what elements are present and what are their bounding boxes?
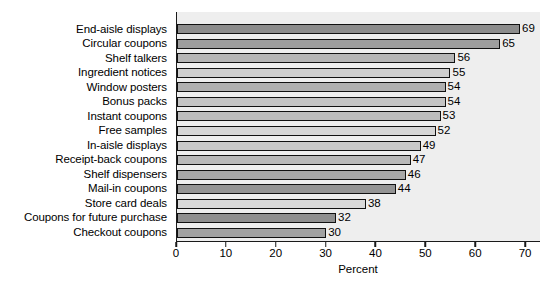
- category-label: Instant coupons: [0, 109, 172, 124]
- category-label: Coupons for future purchase: [0, 211, 172, 226]
- x-axis: 010203040506070: [176, 242, 540, 262]
- bar: 52: [177, 126, 436, 136]
- bar-row: 53: [177, 109, 540, 124]
- bar-value-label: 32: [338, 212, 351, 224]
- bar-row: 69: [177, 22, 540, 37]
- bar-row: 54: [177, 80, 540, 95]
- x-tick-label: 40: [369, 248, 382, 260]
- x-axis-title: Percent: [176, 264, 540, 276]
- bar-row: 32: [177, 211, 540, 226]
- category-label: Window posters: [0, 80, 172, 95]
- bar-value-label: 52: [438, 125, 451, 137]
- bar: 55: [177, 68, 450, 78]
- bar: 44: [177, 184, 396, 194]
- category-label: Checkout coupons: [0, 225, 172, 240]
- bar-row: 49: [177, 138, 540, 153]
- bar-value-label: 30: [328, 227, 341, 239]
- category-label: Bonus packs: [0, 95, 172, 110]
- bar: 32: [177, 213, 336, 223]
- bar-value-label: 56: [457, 53, 470, 65]
- x-tick-label: 70: [519, 248, 532, 260]
- bar-row: 44: [177, 182, 540, 197]
- category-axis: End-aisle displaysCircular couponsShelf …: [0, 22, 172, 240]
- bar: 65: [177, 39, 500, 49]
- bar-value-label: 47: [413, 154, 426, 166]
- bar: 53: [177, 111, 441, 121]
- x-tick-label: 20: [269, 248, 282, 260]
- category-label: Receipt-back coupons: [0, 153, 172, 168]
- x-tick-label: 0: [173, 248, 179, 260]
- category-label: Store card deals: [0, 196, 172, 211]
- x-tick-label: 30: [319, 248, 332, 260]
- bar-value-label: 46: [408, 169, 421, 181]
- bar-row: 47: [177, 153, 540, 168]
- x-tick-label: 60: [469, 248, 482, 260]
- bar: 30: [177, 228, 326, 238]
- bar-value-label: 53: [443, 111, 456, 123]
- plot-area: 696556555454535249474644383230: [176, 12, 540, 242]
- bar: 54: [177, 82, 446, 92]
- bar-row: 56: [177, 51, 540, 66]
- bar-value-label: 54: [448, 96, 461, 108]
- category-label: Free samples: [0, 124, 172, 139]
- category-label: Circular coupons: [0, 37, 172, 52]
- bar-value-label: 69: [522, 24, 535, 36]
- x-tick-label: 50: [419, 248, 432, 260]
- category-label: Ingredient notices: [0, 66, 172, 81]
- bar-chart: End-aisle displaysCircular couponsShelf …: [0, 0, 549, 286]
- category-label: Mail-in coupons: [0, 182, 172, 197]
- x-tick-label: 10: [219, 248, 232, 260]
- bar-value-label: 44: [398, 183, 411, 195]
- bar-row: 30: [177, 225, 540, 240]
- bar-row: 54: [177, 95, 540, 110]
- bar: 56: [177, 53, 455, 63]
- bar-row: 38: [177, 196, 540, 211]
- bar: 47: [177, 155, 411, 165]
- bar: 49: [177, 141, 421, 151]
- bar-row: 52: [177, 124, 540, 139]
- bar: 69: [177, 24, 520, 34]
- bar-value-label: 65: [502, 38, 515, 50]
- category-label: In-aisle displays: [0, 138, 172, 153]
- category-label: Shelf talkers: [0, 51, 172, 66]
- bar-row: 65: [177, 37, 540, 52]
- bar: 38: [177, 199, 366, 209]
- bar-value-label: 49: [423, 140, 436, 152]
- category-label: End-aisle displays: [0, 22, 172, 37]
- bars-layer: 696556555454535249474644383230: [177, 22, 540, 240]
- bar: 46: [177, 170, 406, 180]
- bar-row: 46: [177, 167, 540, 182]
- bar-value-label: 38: [368, 198, 381, 210]
- bar: 54: [177, 97, 446, 107]
- bar-value-label: 55: [452, 67, 465, 79]
- bar-row: 55: [177, 66, 540, 81]
- category-label: Shelf dispensers: [0, 167, 172, 182]
- bar-value-label: 54: [448, 82, 461, 94]
